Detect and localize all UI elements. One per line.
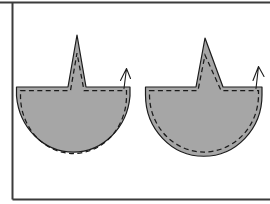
figure-container: [0, 0, 270, 204]
pattern-figure: [0, 0, 270, 204]
